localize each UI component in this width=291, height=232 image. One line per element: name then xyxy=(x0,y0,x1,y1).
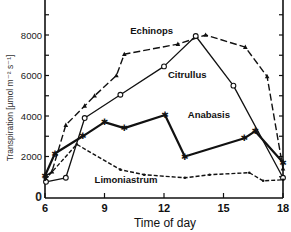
y-tick-label: 4000 xyxy=(21,111,42,122)
y-tick-label: 8000 xyxy=(21,30,42,41)
star-marker-icon: ✱ xyxy=(251,126,259,136)
dot-marker-icon xyxy=(248,171,251,174)
x-ticks: 69121518 xyxy=(42,193,289,214)
dot-marker-icon xyxy=(184,176,187,179)
y-tick-label: 6000 xyxy=(21,70,42,81)
x-tick-label: 6 xyxy=(42,202,48,214)
y-tick-label: 2000 xyxy=(21,151,42,162)
circle-marker-icon xyxy=(118,92,123,97)
x-tick-label: 15 xyxy=(217,202,229,214)
triangle-marker-icon xyxy=(114,73,119,77)
x-tick-label: 9 xyxy=(101,202,107,214)
transpiration-chart: Transpiration [µmol m⁻² s⁻¹] 02000400060… xyxy=(0,0,291,232)
triangle-marker-icon xyxy=(203,32,208,36)
dot-marker-icon xyxy=(208,173,211,176)
x-tick-label: 18 xyxy=(277,202,289,214)
star-marker-icon: ✱ xyxy=(161,110,169,120)
dot-marker-icon xyxy=(262,180,265,183)
x-axis-label: Time of day xyxy=(134,216,196,230)
dot-marker-icon xyxy=(119,168,122,171)
circle-marker-icon xyxy=(193,34,198,39)
circle-marker-icon xyxy=(82,116,87,121)
x-tick-label: 12 xyxy=(158,202,170,214)
series-label-echinops: Echinops xyxy=(130,25,173,36)
circle-marker-icon xyxy=(162,64,167,69)
star-marker-icon: ✱ xyxy=(51,149,59,159)
series-label-citrullus: Citrullus xyxy=(168,69,207,80)
star-marker-icon: ✱ xyxy=(101,117,109,127)
series-label-limoniastrum: Limoniastrum xyxy=(95,174,158,185)
series-limoniastrum xyxy=(44,143,285,182)
triangle-marker-icon xyxy=(64,123,69,127)
star-marker-icon: ✱ xyxy=(79,131,87,141)
circle-marker-icon xyxy=(231,83,236,88)
y-axis-label: Transpiration [µmol m⁻² s⁻¹] xyxy=(5,55,15,162)
dot-marker-icon xyxy=(44,178,47,181)
series-labels: EchinopsCitrullusAnabasisLimoniastrum xyxy=(95,25,230,185)
series-echinops xyxy=(43,32,286,178)
dot-marker-icon xyxy=(282,178,285,181)
series-citrullus xyxy=(44,34,286,185)
series-label-anabasis: Anabasis xyxy=(188,109,230,120)
star-marker-icon: ✱ xyxy=(121,123,129,133)
circle-marker-icon xyxy=(63,175,68,180)
star-marker-icon: ✱ xyxy=(279,158,287,168)
star-marker-icon: ✱ xyxy=(181,152,189,162)
star-marker-icon: ✱ xyxy=(241,133,249,143)
dot-marker-icon xyxy=(75,143,78,146)
series-lines: ✱✱✱✱✱✱✱✱✱✱ xyxy=(41,32,287,184)
